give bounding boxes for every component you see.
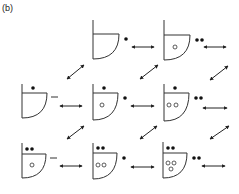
bound-ligand-dot xyxy=(166,146,170,150)
open-site-circle xyxy=(166,161,170,165)
state-r1c2 xyxy=(164,84,203,121)
state-r1c0 xyxy=(22,84,58,118)
bound-ligand-dot xyxy=(101,146,105,150)
free-ligand-dot xyxy=(123,96,127,100)
bound-ligand-dot xyxy=(171,146,175,150)
open-site-circle xyxy=(172,161,176,165)
open-site-circle xyxy=(96,163,100,167)
arrows-layer xyxy=(60,47,229,167)
bound-ligand-dot xyxy=(96,146,100,150)
free-ligand-dot xyxy=(194,96,198,100)
open-site-circle xyxy=(173,45,177,49)
state-r2c1 xyxy=(93,143,126,179)
bound-ligand-dot xyxy=(102,86,106,90)
open-site-circle xyxy=(100,103,104,107)
free-ligand-dot xyxy=(197,156,201,160)
bound-ligand-dot xyxy=(173,86,177,90)
diagonal-equilibrium-arrow-icon xyxy=(140,126,157,139)
free-ligand-dot xyxy=(195,38,199,42)
diagonal-equilibrium-arrow-icon xyxy=(210,66,228,80)
state-r1c1 xyxy=(93,84,127,120)
diagonal-equilibrium-arrow-icon xyxy=(67,126,84,139)
open-site-circle xyxy=(167,103,171,107)
state-r0c1 xyxy=(93,20,128,59)
bound-ligand-dot xyxy=(31,86,35,90)
diagonal-equilibrium-arrow-icon xyxy=(67,65,84,79)
state-r0c2 xyxy=(164,20,204,60)
state-curve xyxy=(163,153,187,178)
open-site-circle xyxy=(174,103,178,107)
bound-ligand-dot xyxy=(25,147,29,151)
diagonal-equilibrium-arrow-icon xyxy=(140,65,158,79)
open-site-circle xyxy=(169,167,173,171)
state-curve xyxy=(22,93,47,118)
state-transition-diagram xyxy=(0,0,239,194)
open-site-circle xyxy=(102,163,106,167)
diagonal-equilibrium-arrow-icon xyxy=(210,126,229,139)
state-curve xyxy=(93,93,118,120)
free-ligand-dot xyxy=(122,156,126,160)
states-layer xyxy=(22,20,204,179)
free-ligand-dot xyxy=(192,156,196,160)
free-ligand-dot xyxy=(199,96,203,100)
free-ligand-dot xyxy=(124,37,128,41)
state-curve xyxy=(93,34,119,59)
bound-ligand-dot xyxy=(30,147,34,151)
state-r2c0 xyxy=(22,143,57,178)
state-r2c2 xyxy=(163,142,201,178)
open-site-circle xyxy=(30,163,34,167)
free-ligand-dot xyxy=(200,38,204,42)
